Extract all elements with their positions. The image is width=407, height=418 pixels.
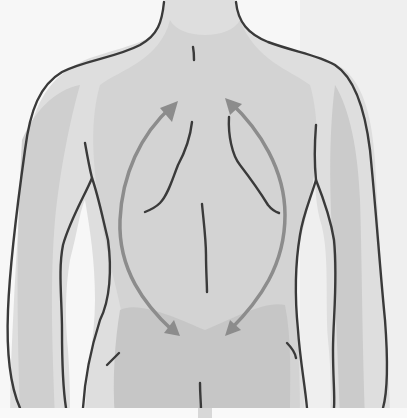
vertebra-mark [193,47,194,60]
bottom-center-strip [198,408,212,418]
outline-gluteal-cleft [200,383,201,410]
back-illustration [0,0,407,418]
